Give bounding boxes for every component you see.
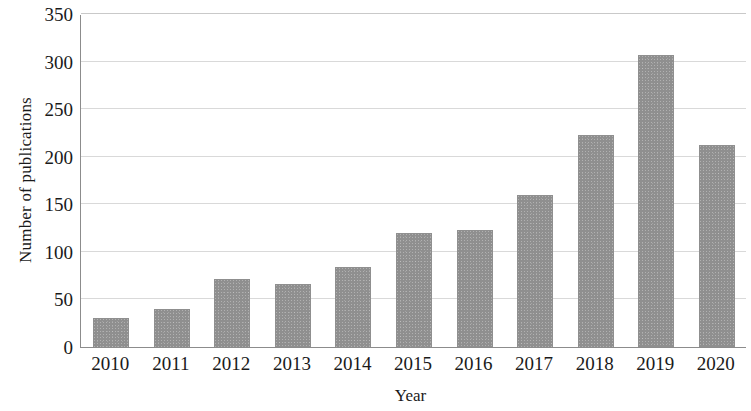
plot-area: 050100150200250300350 bbox=[80, 15, 746, 348]
y-tick-label: 100 bbox=[11, 243, 73, 262]
bar bbox=[578, 135, 614, 347]
x-tick-label: 2014 bbox=[317, 354, 387, 373]
x-tick-label: 2010 bbox=[75, 354, 145, 373]
x-tick-label: 2017 bbox=[499, 354, 569, 373]
bar-slot bbox=[335, 15, 371, 347]
bar-slot bbox=[214, 15, 250, 347]
bar bbox=[699, 145, 735, 347]
y-tick-label: 350 bbox=[11, 5, 73, 24]
bar-slot bbox=[517, 15, 553, 347]
bar bbox=[396, 233, 432, 347]
bar-slot bbox=[638, 15, 674, 347]
bar-slot bbox=[396, 15, 432, 347]
x-tick-label: 2016 bbox=[439, 354, 509, 373]
y-tick-label: 200 bbox=[11, 148, 73, 167]
gridline bbox=[81, 13, 746, 14]
bar-slot bbox=[699, 15, 735, 347]
x-tick-label: 2019 bbox=[620, 354, 690, 373]
bar bbox=[154, 309, 190, 347]
y-tick-label: 150 bbox=[11, 195, 73, 214]
y-tick-label: 0 bbox=[11, 338, 73, 357]
x-tick-label: 2012 bbox=[196, 354, 266, 373]
y-tick-label: 300 bbox=[11, 53, 73, 72]
bar bbox=[335, 267, 371, 347]
bar-slot bbox=[275, 15, 311, 347]
bar-chart-figure: Number of publications 05010015020025030… bbox=[0, 0, 751, 411]
y-tick-label: 250 bbox=[11, 100, 73, 119]
bar bbox=[457, 230, 493, 347]
bar bbox=[214, 279, 250, 347]
x-axis-title: Year bbox=[0, 386, 751, 406]
bar-slot bbox=[154, 15, 190, 347]
y-axis-title: Number of publications bbox=[16, 50, 36, 310]
x-tick-label: 2020 bbox=[681, 354, 751, 373]
x-tick-label: 2018 bbox=[560, 354, 630, 373]
x-tick-label: 2013 bbox=[257, 354, 327, 373]
x-tick-label: 2011 bbox=[136, 354, 206, 373]
y-tick-label: 50 bbox=[11, 290, 73, 309]
x-tick-label: 2015 bbox=[378, 354, 448, 373]
bar bbox=[275, 284, 311, 347]
bar bbox=[638, 55, 674, 347]
x-axis-title-text: Year bbox=[395, 386, 426, 405]
bar-slot bbox=[93, 15, 129, 347]
bar-slot bbox=[578, 15, 614, 347]
bar bbox=[517, 195, 553, 347]
bar-slot bbox=[457, 15, 493, 347]
bar-series bbox=[81, 15, 746, 347]
bar bbox=[93, 318, 129, 347]
